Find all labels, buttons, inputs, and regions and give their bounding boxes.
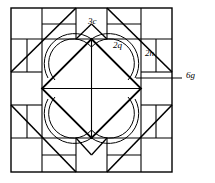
part-label-6g: 6g bbox=[186, 71, 195, 80]
quilt-block-figure: 3c 2q 2n 6g bbox=[0, 0, 215, 183]
part-label-2q: 2q bbox=[113, 41, 122, 50]
quilt-block-drawing bbox=[0, 0, 215, 183]
part-label-3c: 3c bbox=[88, 17, 97, 26]
part-label-2n: 2n bbox=[145, 49, 154, 58]
